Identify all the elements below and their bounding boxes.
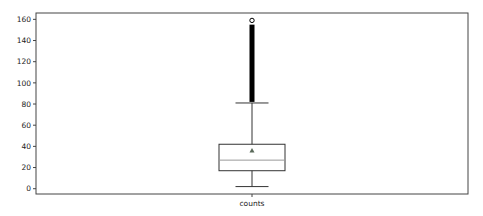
outlier-band [250,25,255,102]
y-axis: 020406080100120140160 [17,15,36,193]
y-tick-label: 80 [21,100,31,109]
y-tick-label: 120 [17,57,32,66]
x-tick-label: counts [239,199,264,208]
y-tick-label: 100 [17,79,32,88]
x-axis: counts [239,194,264,208]
y-tick-label: 60 [21,121,31,130]
box-plot-chart: 020406080100120140160 counts [0,0,483,216]
y-tick-label: 40 [21,142,31,151]
y-tick-label: 0 [26,184,31,193]
y-tick-label: 160 [17,15,32,24]
y-tick-label: 20 [21,163,31,172]
y-tick-label: 140 [17,36,32,45]
